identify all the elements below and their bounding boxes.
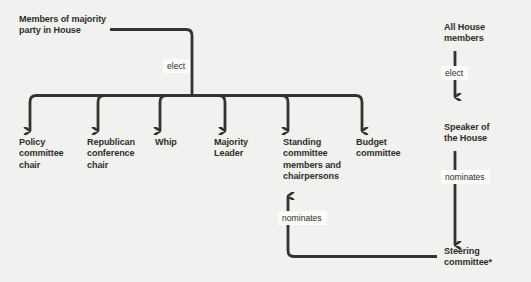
node-members-of-majority-party: Members of majority party in House	[19, 14, 106, 37]
node-policy-committee-chair: Policy committee chair	[19, 137, 64, 171]
edge-branch-standing-committee	[282, 96, 289, 132]
edge-branch-republican	[98, 96, 105, 132]
edge-steering-to-standing	[288, 196, 437, 257]
node-all-house-members: All House members	[444, 22, 485, 45]
node-budget-committee: Budget committee	[356, 137, 401, 160]
node-steering-committee: Steering committee*	[444, 246, 492, 269]
edge-label-all-house-elect: elect	[441, 66, 468, 80]
node-majority-leader: Majority Leader	[214, 137, 248, 160]
edge-branch-whip	[160, 96, 167, 132]
node-republican-conference-chair: Republican conference chair	[87, 137, 135, 171]
edge-branch-majority-leader	[219, 96, 226, 132]
node-whip: Whip	[155, 137, 177, 148]
edge-label-speaker-nominates: nominates	[441, 170, 490, 184]
edge-label-steering-nominates: nominates	[278, 211, 327, 225]
edge-label-majority-party-elect: elect	[163, 59, 190, 73]
node-standing-committee: Standing committee members and chairpers…	[283, 137, 341, 183]
edge-branch-outer	[30, 96, 362, 132]
node-speaker-of-the-house: Speaker of the House	[444, 122, 490, 145]
org-flowchart: Members of majority party in House Polic…	[0, 0, 531, 282]
